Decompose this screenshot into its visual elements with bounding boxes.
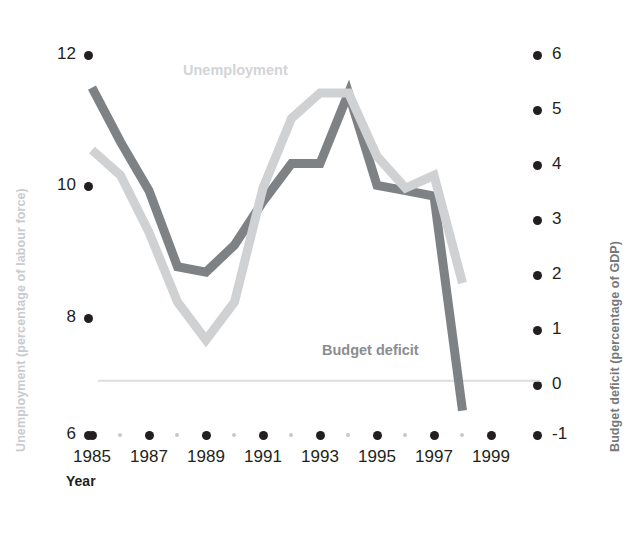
plot-area [0,0,628,538]
series-label-budget-deficit: Budget deficit [322,342,419,358]
chart-container: Unemployment (percentage of labour force… [0,0,628,538]
series-label-unemployment: Unemployment [183,62,288,78]
unemployment-line [92,93,463,340]
x-axis-title: Year [66,473,96,489]
budget-deficit-line [92,88,463,411]
